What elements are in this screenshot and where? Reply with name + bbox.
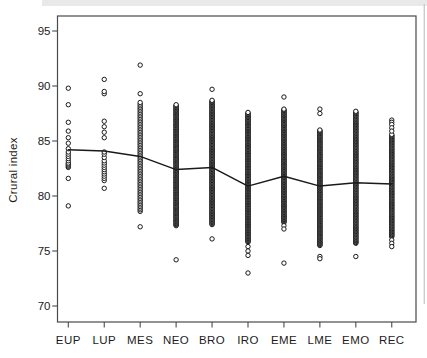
data-point [390,129,394,133]
data-point [354,254,358,258]
y-tick-label: 80 [38,190,51,202]
data-point [318,257,322,261]
data-point [66,103,70,107]
y-tick-label: 90 [38,80,51,92]
plot-area-border [58,16,417,322]
data-point [246,271,250,275]
data-point [138,92,142,96]
data-point [390,244,394,248]
data-point-dense [246,110,250,114]
data-point [66,136,70,140]
data-point-dense [174,103,178,107]
x-axis-ticks: EUPLUPMESNEOBROIROEMELMEEMOREC [56,322,405,346]
x-category-label: LUP [92,334,116,346]
data-point [246,249,250,253]
y-tick-label: 95 [38,25,51,37]
x-category-label: EMO [342,334,369,346]
x-category-label: EME [271,334,297,346]
data-point-dense [282,107,286,111]
data-point [246,244,250,248]
x-category-label: EUP [56,334,81,346]
data-point [102,136,106,140]
x-category-label: LME [307,334,332,346]
x-category-label: NEO [163,334,189,346]
x-category-label: MES [127,334,153,346]
strip-plot-figure: Crural index 707580859095 EUPLUPMESNEOBR… [0,0,427,358]
y-tick-label: 85 [38,135,51,147]
data-point [174,258,178,262]
data-point [138,63,142,67]
data-point [66,86,70,90]
data-point [282,95,286,99]
y-axis-title: Crural index [7,137,19,203]
data-point [66,120,70,124]
data-point [318,111,322,115]
y-tick-label: 70 [38,300,51,312]
y-axis-ticks: 707580859095 [38,25,58,312]
x-category-label: BRO [199,334,225,346]
scan-artifact-top [42,0,427,6]
data-point-dense [318,128,322,132]
data-point-dense [354,109,358,113]
data-point-dense [210,98,214,102]
data-point [138,225,142,229]
data-point [66,129,70,133]
data-point [102,119,106,123]
data-point [318,107,322,111]
data-point [66,141,70,145]
crural-index-chart: Crural index 707580859095 EUPLUPMESNEOBR… [0,0,427,358]
data-point-dense [138,100,142,104]
data-point [102,77,106,81]
data-point [246,253,250,257]
data-point [210,87,214,91]
data-point [102,130,106,134]
x-category-label: REC [379,334,404,346]
data-point [102,125,106,129]
data-point [282,261,286,265]
y-tick-label: 75 [38,245,51,257]
data-point [282,227,286,231]
data-point [210,237,214,241]
scan-artifact-right [424,4,425,304]
data-point [66,204,70,208]
data-point [102,186,106,190]
x-category-label: IRO [237,334,259,346]
data-point [66,176,70,180]
data-point [102,89,106,93]
